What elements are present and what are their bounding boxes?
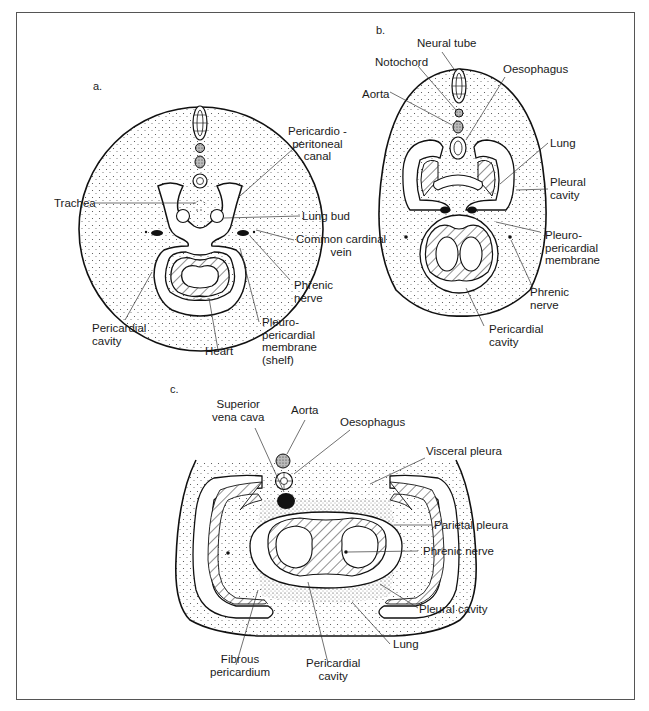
label-pleuropericardial-membrane-b: Pleuro- pericardial membrane	[545, 229, 600, 267]
label-aorta-c: Aorta	[291, 404, 319, 417]
label-pericardial-cavity-b: Pericardial cavity	[489, 323, 543, 348]
label-pericardial-cavity-c: Pericardial cavity	[306, 657, 360, 682]
label-oesophagus-c: Oesophagus	[340, 416, 405, 429]
label-lung-b: Lung	[550, 137, 576, 150]
label-pleural-cavity-b: Pleural cavity	[550, 176, 586, 201]
label-phrenic-nerve-b: Phrenic nerve	[530, 286, 569, 311]
label-neural-tube: Neural tube	[417, 37, 476, 50]
panel-a-letter: a.	[93, 80, 102, 92]
label-aorta-b: Aorta	[362, 88, 390, 101]
label-heart: Heart	[205, 345, 233, 358]
panel-b-diagram	[379, 52, 548, 326]
label-pleural-cavity-c: Pleural cavity	[419, 603, 487, 616]
label-trachea: Trachea	[54, 197, 96, 210]
label-fibrous-pericardium: Fibrous pericardium	[210, 653, 270, 678]
panel-c-letter: c.	[170, 383, 179, 395]
label-lung-bud: Lung bud	[302, 210, 350, 223]
label-phrenic-nerve-c: Phrenic nerve	[423, 545, 494, 558]
label-pericardioperitoneal-canal: Pericardio - peritoneal canal	[288, 125, 347, 163]
label-pleuropericardial-membrane-a: Pleuro- pericardial membrane (shelf)	[262, 316, 317, 366]
label-common-cardinal-vein: Common cardinal vein	[296, 233, 386, 258]
panel-b-letter: b.	[376, 24, 385, 36]
label-visceral-pleura: Visceral pleura	[426, 445, 502, 458]
label-phrenic-nerve-a: Phrenic nerve	[294, 279, 333, 304]
panel-a-diagram	[79, 106, 323, 351]
label-oesophagus-b: Oesophagus	[503, 63, 568, 76]
label-pericardial-cavity-a: Pericardial cavity	[92, 322, 146, 347]
label-lung-c: Lung	[393, 638, 419, 651]
label-parietal-pleura: Parietal pleura	[434, 519, 508, 532]
diagram-artwork	[0, 0, 649, 711]
label-notochord: Notochord	[375, 56, 428, 69]
label-superior-vena-cava: Superior vena cava	[212, 398, 264, 423]
